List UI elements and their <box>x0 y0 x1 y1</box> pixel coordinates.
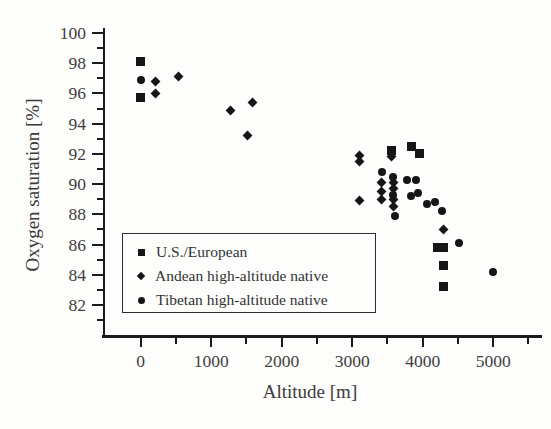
legend-entry-tibetan: Tibetan high-altitude native <box>138 288 375 312</box>
data-point <box>137 76 145 84</box>
data-point <box>354 196 364 206</box>
data-point <box>226 105 236 115</box>
x-tick-major <box>422 338 424 347</box>
square-marker-icon <box>138 249 145 256</box>
scatter-figure: Oxygen saturation [%] Altitude [m] 82848… <box>0 0 551 429</box>
y-tick-label: 84 <box>38 265 86 285</box>
x-tick-minor <box>245 338 247 344</box>
x-tick-major <box>210 338 212 347</box>
y-tick-minor <box>97 198 104 200</box>
x-tick-minor <box>386 338 388 344</box>
y-tick-minor <box>97 168 104 170</box>
x-tick-label: 0 <box>109 351 173 371</box>
data-point <box>388 202 398 212</box>
data-point <box>378 168 386 176</box>
data-point <box>354 156 364 166</box>
x-tick-minor <box>316 338 318 344</box>
y-tick-major <box>92 183 104 185</box>
y-tick-minor <box>97 319 104 321</box>
x-tick-label: 5000 <box>461 351 525 371</box>
y-tick-major <box>92 304 104 306</box>
y-tick-minor <box>97 289 104 291</box>
x-tick-label: 4000 <box>391 351 455 371</box>
data-point <box>439 282 448 291</box>
y-tick-label: 90 <box>38 174 86 194</box>
legend-label: Andean high-altitude native <box>155 267 328 285</box>
circle-marker-icon <box>138 297 145 304</box>
y-tick-label: 88 <box>38 204 86 224</box>
data-point <box>173 72 183 82</box>
legend-entry-andean: Andean high-altitude native <box>138 264 375 288</box>
data-point <box>415 149 424 158</box>
y-tick-minor <box>97 228 104 230</box>
y-tick-major <box>92 244 104 246</box>
data-point <box>243 131 253 141</box>
data-point <box>455 239 463 247</box>
y-tick-label: 82 <box>38 295 86 315</box>
legend-box: U.S./European Andean high-altitude nativ… <box>122 233 376 313</box>
x-tick-major <box>140 338 142 347</box>
data-point <box>489 268 497 276</box>
y-tick-label: 86 <box>38 235 86 255</box>
y-tick-major <box>92 32 104 34</box>
legend-label: Tibetan high-altitude native <box>156 291 328 309</box>
data-point <box>439 243 448 252</box>
x-tick-label: 1000 <box>179 351 243 371</box>
x-axis-line <box>102 335 542 338</box>
x-tick-minor <box>527 338 529 344</box>
data-point <box>248 98 258 108</box>
y-tick-minor <box>97 47 104 49</box>
x-axis-title: Altitude [m] <box>160 381 460 403</box>
data-point <box>377 194 387 204</box>
data-point <box>412 176 420 184</box>
x-tick-minor <box>457 338 459 344</box>
data-point <box>438 207 446 215</box>
x-tick-major <box>281 338 283 347</box>
x-tick-label: 3000 <box>320 351 384 371</box>
y-tick-minor <box>97 77 104 79</box>
data-point <box>136 57 145 66</box>
y-tick-major <box>92 62 104 64</box>
y-tick-minor <box>97 259 104 261</box>
data-point <box>391 212 399 220</box>
y-tick-major <box>92 123 104 125</box>
legend-entry-us-european: U.S./European <box>138 240 375 264</box>
y-tick-major <box>92 274 104 276</box>
data-point <box>151 76 161 86</box>
y-tick-major <box>92 92 104 94</box>
y-tick-minor <box>97 138 104 140</box>
data-point <box>439 224 449 234</box>
y-tick-label: 96 <box>38 83 86 103</box>
y-tick-label: 98 <box>38 53 86 73</box>
y-tick-minor <box>97 108 104 110</box>
y-tick-label: 92 <box>38 144 86 164</box>
y-tick-label: 94 <box>38 114 86 134</box>
data-point <box>423 200 431 208</box>
data-point <box>431 198 439 206</box>
data-point <box>439 261 448 270</box>
legend-label: U.S./European <box>156 243 247 261</box>
data-point <box>414 189 422 197</box>
data-point <box>403 176 411 184</box>
x-tick-label: 2000 <box>250 351 314 371</box>
data-point <box>151 88 161 98</box>
y-tick-major <box>92 153 104 155</box>
x-tick-minor <box>175 338 177 344</box>
y-tick-label: 100 <box>38 23 86 43</box>
y-tick-major <box>92 213 104 215</box>
data-point <box>136 93 145 102</box>
x-tick-major <box>492 338 494 347</box>
data-point <box>389 173 397 181</box>
x-tick-major <box>351 338 353 347</box>
diamond-marker-icon <box>137 272 145 280</box>
